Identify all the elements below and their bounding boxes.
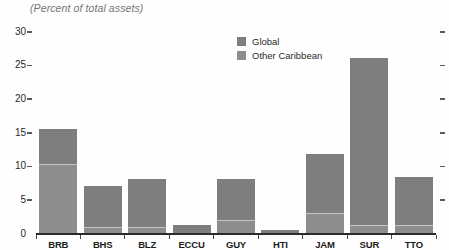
- x-axis-category-label: TTO: [392, 239, 436, 250]
- y-axis-tick-label: 0: [0, 228, 26, 239]
- segment-brb-other-caribbean: [39, 164, 77, 233]
- bar-bhs: [84, 186, 122, 233]
- bar-tto: [395, 177, 433, 233]
- segment-hti-global: [261, 230, 299, 233]
- chart-subtitle: (Percent of total assets): [30, 2, 143, 14]
- x-axis-category-label: HTI: [258, 239, 302, 250]
- y-axis-tick-label: 5: [0, 194, 26, 205]
- y-axis-tick-label: 10: [0, 160, 26, 171]
- bar-eccu: [173, 225, 211, 233]
- y-axis-tick-right: [440, 65, 445, 67]
- segment-blz-global: [128, 179, 166, 227]
- x-axis-category-label: GUY: [214, 239, 258, 250]
- plot-area: 051015202530BRBBHSBLZECCUGUYHTIJAMSURTTO: [36, 31, 436, 235]
- y-axis-tick-right: [440, 31, 445, 33]
- bar-guy: [217, 179, 255, 233]
- y-axis-tick-right: [440, 166, 445, 168]
- x-axis-category-label: BHS: [80, 239, 124, 250]
- bar-brb: [39, 129, 77, 233]
- x-axis-category-label: BLZ: [125, 239, 169, 250]
- segment-sur-global: [350, 58, 388, 225]
- y-axis-tick-left: [27, 199, 32, 201]
- y-axis-tick-label: 25: [0, 59, 26, 70]
- segment-brb-global: [39, 129, 77, 164]
- segment-guy-global: [217, 179, 255, 219]
- x-axis-category-label: SUR: [347, 239, 391, 250]
- segment-blz-other-caribbean: [128, 227, 166, 233]
- segment-tto-global: [395, 177, 433, 225]
- y-axis-tick-left: [27, 132, 32, 134]
- bar-hti: [261, 230, 299, 233]
- segment-tto-other-caribbean: [395, 225, 433, 233]
- segment-bhs-global: [84, 186, 122, 227]
- segment-bhs-other-caribbean: [84, 227, 122, 233]
- segment-jam-other-caribbean: [306, 213, 344, 233]
- x-axis-category-label: JAM: [303, 239, 347, 250]
- chart-figure: (Percent of total assets) GlobalOther Ca…: [0, 0, 449, 250]
- segment-eccu-global: [173, 225, 211, 233]
- y-axis-tick-label: 20: [0, 93, 26, 104]
- y-axis-tick-left: [27, 31, 32, 33]
- segment-jam-global: [306, 154, 344, 214]
- y-axis-tick-right: [440, 132, 445, 134]
- y-axis-tick-label: 15: [0, 127, 26, 138]
- y-axis-tick-right: [440, 98, 445, 100]
- bar-blz: [128, 179, 166, 233]
- y-axis-tick-left: [27, 65, 32, 67]
- segment-guy-other-caribbean: [217, 220, 255, 233]
- y-axis-tick-right: [440, 199, 445, 201]
- segment-sur-other-caribbean: [350, 225, 388, 233]
- bar-jam: [306, 154, 344, 233]
- x-axis-category-label: ECCU: [169, 239, 213, 250]
- y-axis-tick-left: [27, 98, 32, 100]
- y-axis-tick-left: [27, 166, 32, 168]
- x-axis-category-label: BRB: [36, 239, 80, 250]
- y-axis-tick-label: 30: [0, 26, 26, 37]
- bar-sur: [350, 58, 388, 233]
